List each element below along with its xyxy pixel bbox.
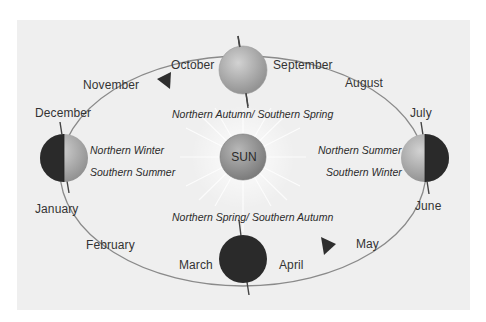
season-left-south: Southern Summer <box>90 165 175 179</box>
sun-label: SUN <box>221 150 267 164</box>
month-february: February <box>86 238 135 252</box>
month-august: August <box>345 76 383 90</box>
orbit-arrow-may-icon <box>321 237 336 255</box>
season-left-north: Northern Winter <box>90 143 164 157</box>
earth-left-icon <box>40 122 88 193</box>
month-november: November <box>83 78 139 92</box>
month-march: March <box>179 258 213 272</box>
month-april: April <box>279 258 304 272</box>
month-january: January <box>35 202 78 216</box>
season-right-north: Northern Summer <box>318 143 401 157</box>
month-september: September <box>273 58 333 72</box>
month-july: July <box>410 106 432 120</box>
season-right-south: Southern Winter <box>326 165 402 179</box>
month-december: December <box>35 106 91 120</box>
season-top: Northern Autumn/ Southern Spring <box>172 107 333 121</box>
earth-top-icon <box>219 36 267 108</box>
month-june: June <box>415 199 441 213</box>
month-october: October <box>171 58 214 72</box>
orbit-arrow-november-icon <box>157 72 171 89</box>
season-bottom: Northern Spring/ Southern Autumn <box>172 210 333 224</box>
month-may: May <box>356 237 379 251</box>
